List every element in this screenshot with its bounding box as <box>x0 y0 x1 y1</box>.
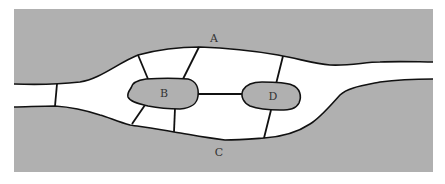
bridges-diagram: A B C D <box>0 0 445 184</box>
region-label-c: C <box>215 146 223 159</box>
bridge-b-c-2 <box>174 108 175 132</box>
region-label-d: D <box>269 90 278 103</box>
region-label-b: B <box>160 87 168 100</box>
map-canvas: A B C D <box>0 0 445 184</box>
region-label-a: A <box>209 32 219 45</box>
